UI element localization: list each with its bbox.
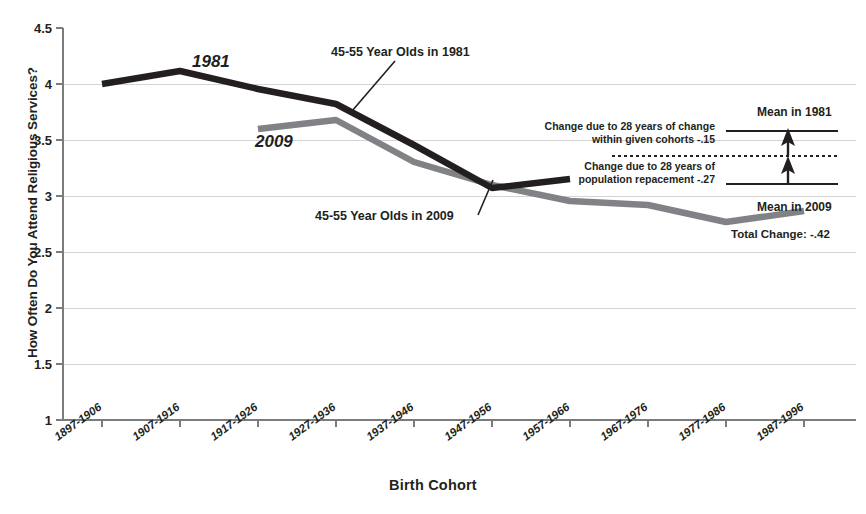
population-replacement-arrow xyxy=(781,156,795,183)
population-replacement-line1: Change due to 28 years of xyxy=(430,160,715,173)
population-replacement-change-label: Change due to 28 years of population rep… xyxy=(430,160,715,185)
total-change-label: Total Change: -.42 xyxy=(731,228,830,240)
y-tick-marks xyxy=(56,28,63,420)
series-label-2009: 2009 xyxy=(255,132,293,152)
callout-2009: 45-55 Year Olds in 2009 xyxy=(315,209,454,223)
within-cohort-arrow xyxy=(781,128,795,156)
population-replacement-line2: population repacement -.27 xyxy=(430,173,715,186)
axis-lines xyxy=(63,28,856,420)
mean-2009-label: Mean in 2009 xyxy=(757,200,832,214)
within-cohort-change-line1: Change due to 28 years of change xyxy=(430,120,715,133)
religious-attendance-line-chart: How Often Do You Attend Religious Servic… xyxy=(0,0,866,514)
callout-1981: 45-55 Year Olds in 1981 xyxy=(331,45,470,59)
x-axis-title: Birth Cohort xyxy=(0,477,866,493)
callout-leader-1981 xyxy=(352,61,395,111)
within-cohort-change-label: Change due to 28 years of change within … xyxy=(430,120,715,145)
plot-area xyxy=(0,0,866,514)
series-label-1981: 1981 xyxy=(192,52,230,72)
mean-1981-label: Mean in 1981 xyxy=(757,105,832,119)
within-cohort-change-line2: within given cohorts -.15 xyxy=(430,133,715,146)
